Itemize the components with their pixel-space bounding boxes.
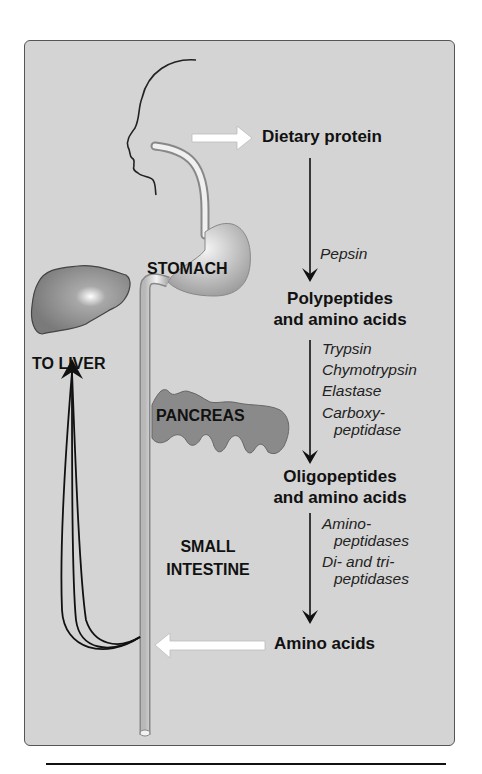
oligopeptides-label-1: Oligopeptides — [250, 467, 430, 487]
diagram-artwork — [0, 0, 482, 774]
polypeptides-label-2: and amino acids — [250, 310, 430, 330]
pancreas-label: PANCREAS — [156, 406, 245, 425]
arrow-left-icon — [155, 633, 265, 658]
esophagus — [155, 146, 205, 235]
amino-acids-label: Amino acids — [274, 634, 375, 654]
enzyme-di-tri-peptidases: peptidases — [334, 570, 409, 588]
bottom-divider — [46, 763, 446, 765]
enzyme-elastase: Elastase — [322, 382, 381, 400]
enzyme-peptidase: peptidase — [334, 421, 401, 439]
head-profile-icon — [127, 60, 196, 195]
enzyme-amino: Amino- — [322, 515, 371, 533]
oligopeptides-label-2: and amino acids — [250, 488, 430, 508]
polypeptides-label-1: Polypeptides — [250, 289, 430, 309]
small-intestine-label-2: INTESTINE — [153, 560, 263, 579]
enzyme-carboxy: Carboxy- — [322, 404, 385, 422]
to-liver-arrows — [61, 372, 140, 649]
dietary-protein-label: Dietary protein — [262, 127, 382, 147]
small-intestine-label-1: SMALL — [153, 537, 263, 556]
enzyme-trypsin: Trypsin — [322, 340, 372, 358]
stomach-label: STOMACH — [147, 259, 228, 278]
liver-shape — [31, 266, 130, 334]
enzyme-pepsin: Pepsin — [320, 245, 367, 263]
arrow-right-icon — [192, 126, 252, 150]
enzyme-di-tri: Di- and tri- — [322, 553, 394, 571]
enzyme-aminopeptidases: peptidases — [334, 532, 409, 550]
enzyme-chymotrypsin: Chymotrypsin — [322, 361, 417, 379]
to-liver-label: TO LIVER — [32, 354, 106, 373]
